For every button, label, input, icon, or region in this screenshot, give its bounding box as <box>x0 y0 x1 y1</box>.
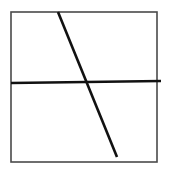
diagram-figure <box>0 0 170 173</box>
diagonal-line <box>58 12 117 157</box>
square-frame <box>11 12 157 162</box>
diagram-canvas <box>0 0 170 173</box>
